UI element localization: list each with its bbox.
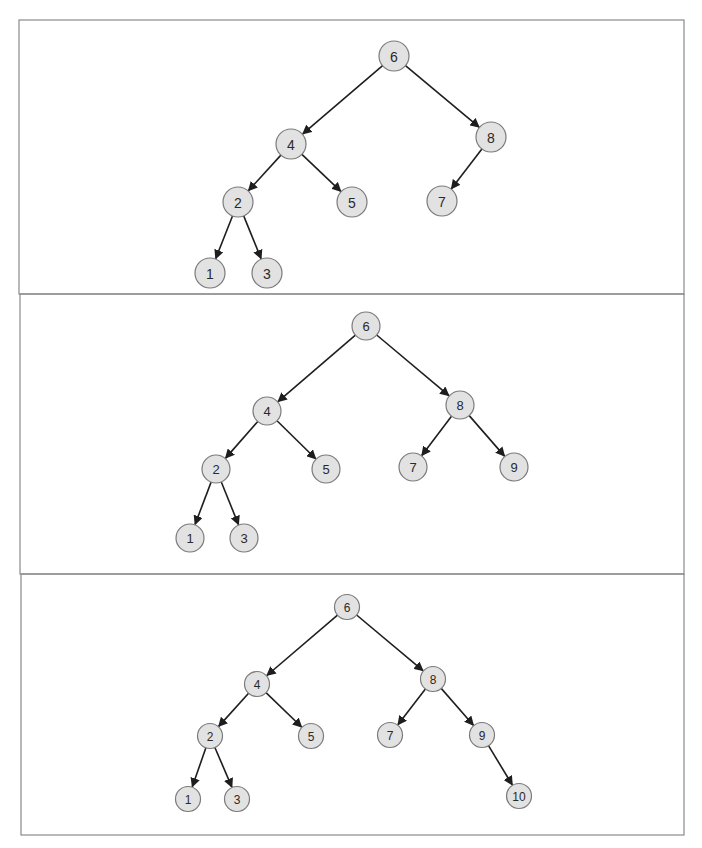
node-label: 3 bbox=[263, 266, 271, 282]
tree-node-7: 7 bbox=[427, 186, 457, 216]
node-label: 1 bbox=[185, 793, 192, 807]
tree-node-4: 4 bbox=[253, 397, 281, 425]
tree-node-2: 2 bbox=[223, 187, 253, 217]
edge-arrow-6-to-8 bbox=[406, 66, 480, 128]
panel-frame bbox=[20, 294, 684, 574]
node-label: 7 bbox=[409, 460, 416, 475]
edge-arrow-8-to-7 bbox=[451, 149, 482, 189]
bst-diagram-canvas: 6482571364825791364825791310 bbox=[0, 0, 702, 848]
edge-arrow-2-to-1 bbox=[195, 482, 211, 524]
tree-node-3: 3 bbox=[230, 524, 258, 552]
node-label: 3 bbox=[240, 531, 247, 546]
edge-arrow-2-to-1 bbox=[216, 216, 233, 259]
node-label: 8 bbox=[456, 398, 463, 413]
node-label: 5 bbox=[348, 195, 356, 211]
edge-arrow-9-to-10 bbox=[489, 746, 513, 785]
tree-node-8: 8 bbox=[446, 391, 474, 419]
node-label: 9 bbox=[510, 460, 517, 475]
node-label: 4 bbox=[254, 678, 261, 692]
tree-panel-2: 648257913 bbox=[20, 294, 684, 574]
edge-arrow-2-to-3 bbox=[244, 216, 261, 259]
tree-node-9: 9 bbox=[500, 453, 528, 481]
node-label: 4 bbox=[287, 137, 295, 153]
tree-node-1: 1 bbox=[176, 787, 201, 812]
tree-node-5: 5 bbox=[299, 724, 324, 749]
edge-arrow-4-to-5 bbox=[266, 693, 302, 727]
tree-node-5: 5 bbox=[312, 455, 340, 483]
edge-arrow-4-to-2 bbox=[219, 693, 249, 726]
tree-node-2: 2 bbox=[198, 724, 223, 749]
node-label: 7 bbox=[438, 194, 446, 210]
node-label: 5 bbox=[308, 730, 315, 744]
edge-arrow-4-to-2 bbox=[226, 422, 258, 459]
node-label: 7 bbox=[387, 729, 394, 743]
tree-node-2: 2 bbox=[202, 455, 230, 483]
node-label: 10 bbox=[512, 790, 526, 804]
node-label: 8 bbox=[430, 673, 437, 687]
panel-frame bbox=[19, 20, 684, 294]
node-label: 6 bbox=[390, 49, 398, 65]
edge-arrow-4-to-5 bbox=[302, 154, 341, 191]
edge-arrow-6-to-8 bbox=[357, 615, 423, 671]
node-label: 6 bbox=[362, 319, 369, 334]
edge-arrow-8-to-9 bbox=[441, 688, 473, 725]
tree-node-8: 8 bbox=[476, 122, 506, 152]
tree-node-4: 4 bbox=[276, 129, 306, 159]
tree-node-3: 3 bbox=[252, 258, 282, 288]
edge-arrow-2-to-3 bbox=[221, 482, 238, 525]
edge-arrow-2-to-3 bbox=[215, 748, 232, 788]
tree-node-4: 4 bbox=[245, 672, 270, 697]
tree-panel-3: 64825791310 bbox=[21, 574, 684, 835]
tree-panel-1: 64825713 bbox=[19, 20, 684, 294]
node-label: 1 bbox=[206, 266, 214, 282]
node-label: 6 bbox=[344, 601, 351, 615]
edge-arrow-4-to-5 bbox=[277, 421, 316, 459]
tree-node-5: 5 bbox=[337, 187, 367, 217]
node-label: 2 bbox=[212, 462, 219, 477]
tree-node-8: 8 bbox=[421, 667, 446, 692]
tree-node-6: 6 bbox=[352, 312, 380, 340]
panels-layer: 6482571364825791364825791310 bbox=[19, 20, 684, 835]
edge-arrow-8-to-7 bbox=[398, 689, 426, 725]
node-label: 1 bbox=[186, 531, 193, 546]
edge-arrow-6-to-4 bbox=[303, 66, 383, 134]
tree-node-6: 6 bbox=[379, 41, 409, 71]
tree-node-7: 7 bbox=[378, 723, 403, 748]
edge-arrow-6-to-4 bbox=[278, 335, 355, 402]
node-label: 2 bbox=[234, 195, 242, 211]
tree-node-6: 6 bbox=[335, 595, 360, 620]
edge-arrow-8-to-9 bbox=[469, 416, 504, 457]
tree-node-10: 10 bbox=[507, 784, 532, 809]
edge-arrow-6-to-8 bbox=[377, 335, 449, 396]
node-label: 8 bbox=[487, 130, 495, 146]
tree-node-9: 9 bbox=[470, 723, 495, 748]
node-label: 4 bbox=[263, 404, 270, 419]
node-label: 9 bbox=[479, 729, 486, 743]
tree-node-1: 1 bbox=[195, 258, 225, 288]
edge-arrow-4-to-2 bbox=[249, 155, 281, 191]
node-label: 3 bbox=[234, 793, 241, 807]
node-label: 2 bbox=[207, 730, 214, 744]
node-label: 5 bbox=[322, 462, 329, 477]
tree-node-7: 7 bbox=[399, 453, 427, 481]
edge-arrow-8-to-7 bbox=[422, 416, 452, 455]
edge-arrow-6-to-4 bbox=[267, 615, 338, 675]
tree-node-1: 1 bbox=[176, 524, 204, 552]
tree-node-3: 3 bbox=[225, 787, 250, 812]
edge-arrow-2-to-1 bbox=[192, 748, 206, 787]
